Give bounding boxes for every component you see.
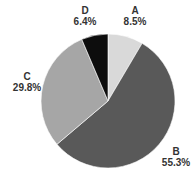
label-c: C 29.8% (13, 71, 41, 93)
label-d: D 6.4% (74, 5, 97, 27)
label-b: B 55.3% (162, 146, 190, 168)
label-a-category: A (124, 5, 147, 16)
label-b-category: B (162, 146, 190, 157)
label-d-category: D (74, 5, 97, 16)
label-c-category: C (13, 71, 41, 82)
label-d-percent: 6.4% (74, 16, 97, 27)
label-a-percent: 8.5% (124, 16, 147, 27)
label-a: A 8.5% (124, 5, 147, 27)
label-c-percent: 29.8% (13, 82, 41, 93)
label-b-percent: 55.3% (162, 157, 190, 168)
